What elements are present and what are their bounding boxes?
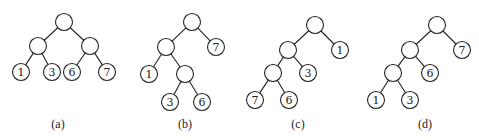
tree-caption: (c) bbox=[291, 117, 304, 131]
tree-edge bbox=[381, 80, 389, 93]
tree-edge bbox=[44, 28, 58, 40]
tree-edge bbox=[398, 57, 405, 66]
node-label: 1 bbox=[337, 44, 344, 57]
tree-edge bbox=[443, 31, 456, 44]
node-label: 1 bbox=[373, 94, 380, 107]
tree-edge bbox=[294, 56, 303, 66]
tree-edge bbox=[398, 80, 406, 93]
node-label: 3 bbox=[167, 96, 174, 109]
tree-caption: (b) bbox=[178, 117, 192, 131]
node-label: 6 bbox=[199, 96, 206, 109]
node-label: 1 bbox=[146, 68, 153, 81]
node-label: 1 bbox=[18, 66, 25, 79]
node-label: 7 bbox=[213, 41, 220, 54]
tree-edge bbox=[294, 31, 309, 44]
tree-edge bbox=[416, 56, 425, 66]
internal-node bbox=[280, 42, 297, 59]
internal-node bbox=[429, 17, 446, 34]
internal-node bbox=[30, 38, 47, 55]
tree-edge bbox=[95, 53, 103, 65]
tree-edge bbox=[278, 57, 284, 66]
tree-edge bbox=[174, 81, 181, 94]
internal-node bbox=[56, 14, 73, 31]
tree-edge bbox=[198, 28, 210, 41]
internal-node bbox=[307, 17, 324, 34]
internal-node bbox=[158, 39, 175, 56]
node-label: 7 bbox=[104, 66, 111, 79]
tree-d: 7613(d) bbox=[368, 17, 471, 132]
node-label: 3 bbox=[49, 66, 56, 79]
tree-edge bbox=[154, 54, 162, 67]
tree-caption: (a) bbox=[51, 117, 64, 131]
tree-caption: (d) bbox=[418, 117, 432, 131]
internal-node bbox=[402, 42, 419, 59]
tree-edge bbox=[277, 80, 284, 92]
internal-node bbox=[177, 66, 194, 83]
node-label: 3 bbox=[305, 67, 312, 80]
tree-edge bbox=[26, 53, 34, 65]
tree-b: 7136(b) bbox=[141, 14, 225, 132]
tree-edge bbox=[260, 80, 269, 93]
tree-edge bbox=[189, 81, 197, 94]
internal-node bbox=[265, 65, 282, 82]
binary-trees-diagram: 1367(a)7136(b)1376(c)7613(d) bbox=[0, 0, 479, 140]
tree-edge bbox=[171, 54, 180, 67]
node-label: 6 bbox=[427, 67, 434, 80]
tree-edge bbox=[77, 53, 85, 65]
tree-edge bbox=[70, 28, 84, 40]
tree-edge bbox=[416, 31, 431, 44]
tree-edge bbox=[321, 31, 334, 44]
tree-edge bbox=[42, 53, 48, 64]
internal-node bbox=[82, 38, 99, 55]
node-label: 6 bbox=[69, 66, 76, 79]
internal-node bbox=[184, 14, 201, 31]
node-label: 3 bbox=[407, 94, 414, 107]
tree-a: 1367(a) bbox=[13, 14, 116, 132]
node-label: 7 bbox=[252, 94, 259, 107]
node-label: 7 bbox=[459, 44, 466, 57]
tree-c: 1376(c) bbox=[247, 17, 349, 132]
tree-edge bbox=[172, 28, 186, 41]
node-label: 6 bbox=[286, 94, 293, 107]
internal-node bbox=[385, 65, 402, 82]
